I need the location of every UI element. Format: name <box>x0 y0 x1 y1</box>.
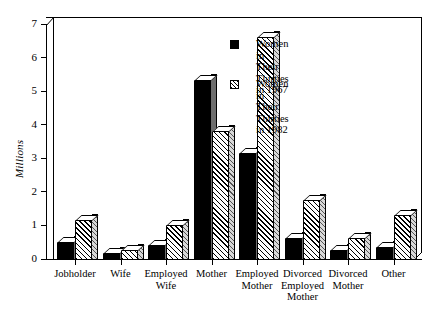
x-tick-mark <box>257 260 258 265</box>
bar-1982 <box>394 215 411 260</box>
bar-1982 <box>303 200 320 260</box>
hatched-swatch <box>230 80 239 89</box>
bar-group <box>148 17 190 260</box>
legend-label: Women in Their Thirties in 1982 <box>256 78 289 136</box>
x-tick-mark <box>394 260 395 265</box>
bar-1982 <box>212 131 229 260</box>
bar-group <box>376 17 418 260</box>
legend-item: Women in Their Thirties in 1982 <box>230 78 289 136</box>
bar-1967 <box>376 247 393 260</box>
bar-1982 <box>348 238 365 260</box>
y-tick-label: 6 <box>21 52 37 62</box>
bar-1967 <box>239 153 256 260</box>
bar-1967 <box>148 245 165 260</box>
x-axis-label: Other <box>364 268 424 280</box>
y-tick-label: 7 <box>21 18 37 28</box>
x-tick-mark <box>303 260 304 265</box>
bar-side-face <box>320 194 326 260</box>
y-tick-label: 1 <box>21 219 37 229</box>
bar-1967 <box>330 250 347 260</box>
bar-1982 <box>121 250 138 260</box>
bar-group <box>330 17 372 260</box>
x-tick-mark <box>348 260 349 265</box>
solid-black-swatch <box>230 40 239 49</box>
bar-1967 <box>103 253 120 260</box>
y-tick-label: 5 <box>21 85 37 95</box>
x-tick-mark <box>75 260 76 265</box>
x-tick-mark <box>212 260 213 265</box>
bar-side-face <box>92 214 98 260</box>
bar-1982 <box>75 220 92 260</box>
y-tick-label: 2 <box>21 186 37 196</box>
y-tick-label: 0 <box>21 253 37 263</box>
bar-1967 <box>57 242 74 260</box>
bar-group <box>103 17 145 260</box>
x-tick-mark <box>121 260 122 265</box>
bar-side-face <box>229 125 235 260</box>
y-tick-label: 4 <box>21 119 37 129</box>
bar-1982 <box>166 225 183 260</box>
bar-1967 <box>285 238 302 260</box>
bar-side-face <box>411 209 417 260</box>
y-tick-label: 3 <box>21 152 37 162</box>
x-tick-mark <box>166 260 167 265</box>
bar-chart: Millions 01234567 JobholderWifeEmployed … <box>0 0 436 315</box>
bar-group <box>285 17 327 260</box>
bar-group <box>57 17 99 260</box>
bar-1967 <box>194 80 211 260</box>
